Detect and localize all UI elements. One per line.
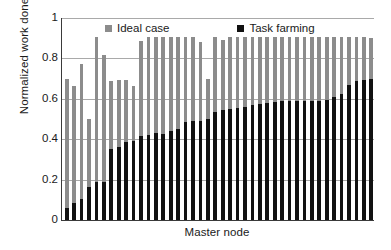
bar-ideal-case [80,64,84,220]
bar-task-farming [340,94,344,220]
bar-group [206,18,210,220]
bar-group [80,18,84,220]
bar-task-farming [161,134,165,220]
bar-task-farming [102,182,106,220]
bar-group [169,18,173,220]
bar-group [310,18,314,220]
bar-group [72,18,76,220]
bar-task-farming [132,141,136,220]
bar-task-farming [65,208,69,220]
bar-group [251,18,255,220]
bar-task-farming [332,97,336,220]
bar-group [369,18,373,220]
bar-task-farming [72,203,76,220]
bar-ideal-case [72,86,76,220]
bar-group [325,18,329,220]
bar-task-farming [243,107,247,220]
bar-group [199,18,203,220]
y-axis-tick-label: 0.4 [32,133,58,145]
bar-group [288,18,292,220]
bar-group [303,18,307,220]
bar-task-farming [280,101,284,220]
bar-group [117,18,121,220]
bar-task-farming [169,131,173,220]
bar-task-farming [206,119,210,220]
bar-group [87,18,91,220]
bar-group [332,18,336,220]
bar-group [124,18,128,220]
bar-task-farming [258,104,262,220]
bar-series-container [62,18,374,220]
bar-group [258,18,262,220]
bar-group [243,18,247,220]
bar-group [154,18,158,220]
bar-task-farming [236,108,240,220]
bar-group [213,18,217,220]
y-axis-tick-labels: 00.20.40.60.81 [28,0,58,250]
bar-task-farming [176,129,180,220]
y-axis-tick-label: 0.2 [32,174,58,186]
bar-group [65,18,69,220]
bar-task-farming [273,102,277,220]
bar-task-farming [362,80,366,220]
bar-task-farming [325,100,329,220]
bar-group [95,18,99,220]
bar-task-farming [87,187,91,220]
plot-area [61,18,374,221]
bar-task-farming [221,110,225,220]
bar-task-farming [347,85,351,220]
bar-task-farming [213,112,217,220]
y-axis-tick-label: 0.6 [32,93,58,105]
bar-task-farming [317,101,321,220]
bar-task-farming [251,105,255,220]
bar-group [147,18,151,220]
bar-task-farming [288,101,292,220]
bar-group [176,18,180,220]
bar-group [139,18,143,220]
bar-task-farming [154,133,158,220]
bar-group [109,18,113,220]
bar-task-farming [295,101,299,220]
bar-group [340,18,344,220]
bar-group [132,18,136,220]
bar-task-farming [109,149,113,220]
x-axis-title: Master node [61,226,373,238]
bar-task-farming [184,122,188,220]
bar-task-farming [80,199,84,220]
bar-chart: Normalized work done 00.20.40.60.81 Idea… [0,0,391,250]
bar-group [228,18,232,220]
bar-task-farming [355,81,359,220]
y-axis-tick-label: 1 [32,12,58,24]
bar-group [317,18,321,220]
bar-task-farming [147,135,151,220]
bar-task-farming [124,142,128,220]
y-axis-tick-label: 0 [32,214,58,226]
bar-task-farming [369,79,373,220]
bar-group [236,18,240,220]
bar-group [280,18,284,220]
bar-task-farming [303,101,307,220]
bar-group [161,18,165,220]
bar-task-farming [265,103,269,220]
bar-task-farming [191,121,195,220]
y-axis-tick-label: 0.8 [32,52,58,64]
bar-group [221,18,225,220]
bar-group [191,18,195,220]
bar-task-farming [199,121,203,220]
bar-group [102,18,106,220]
bar-group [347,18,351,220]
bar-task-farming [228,109,232,220]
bar-task-farming [117,147,121,220]
bar-task-farming [139,136,143,220]
bar-group [273,18,277,220]
y-axis-tick-marks [0,18,6,220]
bar-task-farming [95,182,99,220]
bar-task-farming [310,101,314,220]
bar-group [295,18,299,220]
bar-ideal-case [65,79,69,220]
bar-group [362,18,366,220]
bar-group [355,18,359,220]
bar-group [184,18,188,220]
bar-group [265,18,269,220]
